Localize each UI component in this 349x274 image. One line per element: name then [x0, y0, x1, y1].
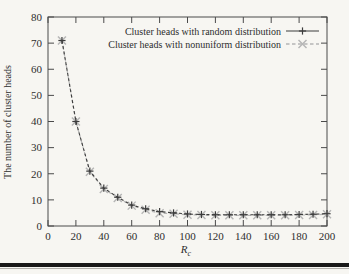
page-footer-rule: [0, 263, 349, 267]
x-tick-label: 120: [207, 230, 224, 242]
x-tick-label: 0: [45, 230, 51, 242]
x-tick-label: 200: [319, 230, 336, 242]
legend-label-random: Cluster heads with random distribution: [125, 26, 281, 37]
y-tick-label: 60: [31, 63, 43, 75]
x-axis-label: Rc: [180, 243, 192, 258]
y-tick-label: 50: [31, 89, 43, 101]
y-tick-label: 30: [31, 141, 43, 153]
y-tick-label: 70: [31, 37, 43, 49]
x-tick-label: 160: [263, 230, 280, 242]
x-axis-label-subscript: c: [188, 249, 192, 258]
legend-label-nonuniform: Cluster heads with nonuniform distributi…: [108, 39, 281, 50]
y-tick-label: 40: [31, 115, 43, 127]
page-background: 0204060801001201401601802000102030405060…: [0, 0, 349, 274]
y-tick-label: 0: [37, 220, 43, 232]
x-tick-label: 100: [179, 230, 196, 242]
y-tick-label: 20: [31, 168, 43, 180]
y-tick-label: 10: [31, 194, 43, 206]
cluster-heads-chart: 0204060801001201401601802000102030405060…: [0, 0, 349, 274]
x-tick-label: 20: [70, 230, 82, 242]
y-tick-label: 80: [31, 11, 43, 23]
series-line-nonuniform: [62, 41, 327, 216]
x-tick-label: 140: [235, 230, 252, 242]
x-tick-label: 180: [291, 230, 308, 242]
y-axis-label: The number of cluster heads: [2, 65, 13, 179]
x-tick-label: 80: [154, 230, 166, 242]
x-tick-label: 60: [126, 230, 138, 242]
page-footer-rule-shadow: [0, 268, 349, 269]
x-tick-label: 40: [98, 230, 110, 242]
